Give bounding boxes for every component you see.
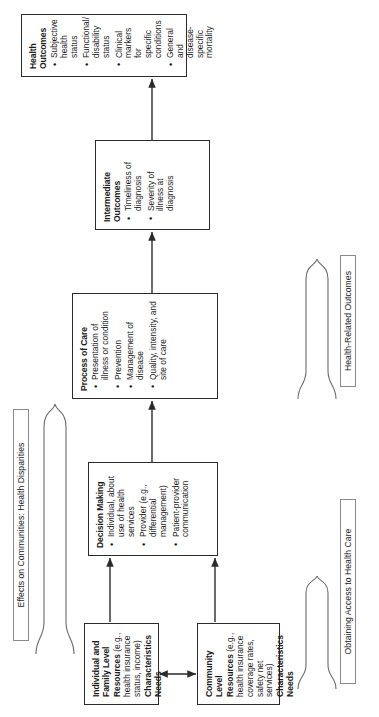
list-item: Timeliness of diagnosis	[124, 148, 144, 211]
node-process-of-care: Process of Care Presentation of illness …	[72, 293, 218, 399]
list-item: Severity of illness at diagnosis	[147, 148, 176, 211]
caption-health-related-outcomes: Health-Related Outcomes	[340, 255, 356, 387]
node-health-outcomes: Health Outcomes Subjective health status…	[21, 14, 187, 77]
node-bullet-list: Presentation of illness or condition Pre…	[91, 301, 168, 391]
node-characteristics: Characteristics	[143, 631, 153, 697]
list-item: Provider (e.g., differential management)	[139, 470, 168, 537]
brace-effects	[36, 404, 74, 654]
node-intermediate-outcomes: Intermediate Outcomes Timeliness of diag…	[95, 140, 210, 230]
list-item: Prevention	[114, 301, 124, 380]
list-item: Patient-provider communication	[172, 470, 192, 537]
list-item: General and disease-specific mortality	[166, 22, 215, 58]
node-needs: Needs	[285, 631, 295, 697]
node-resources-line: Resources (e.g., health insurance status…	[113, 631, 142, 697]
list-item: Quality, intensity, and site of care	[149, 301, 169, 380]
node-characteristics: Characteristics	[275, 631, 285, 697]
resources-label: Resources	[225, 654, 235, 697]
node-title: Individual and Family Level	[91, 631, 111, 697]
list-item: Individual, about use of health services	[107, 470, 136, 537]
caption-obtaining-access: Obtaining Access to Health Care	[340, 499, 356, 684]
node-title: Health Outcomes	[28, 22, 48, 69]
node-decision-making: Decision Making Individual, about use of…	[88, 462, 218, 556]
node-individual-and-family-level: Individual and Family Level Resources (e…	[84, 623, 159, 705]
node-bullet-list: Subjective health status Functional/ dis…	[50, 22, 215, 69]
node-title: Decision Making	[95, 470, 105, 548]
node-bullet-list: Individual, about use of health services…	[107, 470, 191, 548]
node-title: Process of Care	[79, 301, 89, 391]
brace-outcomes	[298, 259, 336, 399]
node-needs: Needs	[153, 631, 163, 697]
list-item: Clinical markers for specific conditions	[115, 22, 164, 58]
caption-effects-on-communities: Effects on Communities: Health Dispariti…	[13, 409, 29, 641]
node-title: Community Level	[204, 631, 224, 697]
list-item: Subjective health status	[50, 22, 79, 58]
brace-access	[298, 576, 336, 689]
resources-label: Resources	[112, 654, 122, 697]
list-item: Presentation of illness or condition	[91, 301, 111, 380]
node-resources-line: Resources (e.g., health insurance covera…	[226, 631, 275, 697]
list-item: Management of disease	[126, 301, 146, 380]
node-title: Intermediate Outcomes	[102, 148, 122, 222]
list-item: Functional/ disability status	[82, 22, 111, 58]
node-bullet-list: Timeliness of diagnosis Severity of illn…	[124, 148, 176, 222]
node-community-level: Community Level Resources (e.g., health …	[197, 623, 280, 705]
conceptual-framework-diagram: Individual and Family Level Resources (e…	[0, 0, 379, 717]
